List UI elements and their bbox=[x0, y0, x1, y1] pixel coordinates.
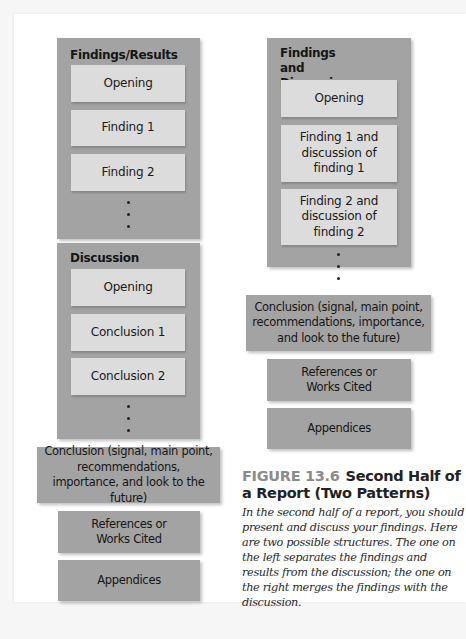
continuation-dots bbox=[337, 253, 341, 289]
finding-2-box: Finding 2 bbox=[71, 154, 185, 191]
right-appendices-box: Appendices bbox=[267, 408, 411, 449]
finding-1-discussion-box: Finding 1 and discussion of finding 1 bbox=[281, 125, 397, 182]
right-references-label: References or Works Cited bbox=[267, 365, 411, 396]
findings-results-title: Findings/Results bbox=[70, 48, 177, 63]
discussion-section: Discussion Opening Conclusion 1 Conclusi… bbox=[57, 243, 200, 439]
discussion-opening-label: Opening bbox=[103, 280, 152, 296]
figure-caption-body: In the second half of a report, you shou… bbox=[242, 505, 464, 610]
conclusion-2-box: Conclusion 2 bbox=[71, 358, 185, 395]
findings-opening-label: Opening bbox=[103, 76, 152, 92]
right-conclusion-label: Conclusion (signal, main point, recommen… bbox=[246, 300, 431, 347]
conclusion-1-box: Conclusion 1 bbox=[71, 314, 185, 351]
continuation-dots bbox=[127, 405, 131, 441]
left-references-box: References or Works Cited bbox=[58, 511, 200, 553]
right-conclusion-box: Conclusion (signal, main point, recommen… bbox=[246, 295, 431, 351]
continuation-dots bbox=[127, 201, 131, 237]
left-conclusion-box: Conclusion (signal, main point, recommen… bbox=[37, 447, 220, 503]
finding-2-discussion-label: Finding 2 and discussion of finding 2 bbox=[281, 194, 397, 241]
finding-2-discussion-box: Finding 2 and discussion of finding 2 bbox=[281, 189, 397, 245]
left-appendices-label: Appendices bbox=[97, 573, 161, 589]
conclusion-1-label: Conclusion 1 bbox=[91, 325, 165, 341]
findings-discussion-section: Findings and Discussion Opening Finding … bbox=[267, 38, 411, 267]
right-references-box: References or Works Cited bbox=[267, 359, 411, 401]
discussion-opening-box: Opening bbox=[71, 269, 185, 306]
findings-results-section: Findings/Results Opening Finding 1 Findi… bbox=[57, 38, 200, 239]
findings-opening-box: Opening bbox=[71, 65, 185, 102]
finding-2-label: Finding 2 bbox=[102, 165, 155, 181]
finding-1-box: Finding 1 bbox=[71, 110, 185, 146]
finding-1-label: Finding 1 bbox=[102, 120, 155, 136]
merged-opening-label: Opening bbox=[314, 91, 363, 107]
left-references-label: References or Works Cited bbox=[58, 517, 200, 548]
left-conclusion-label: Conclusion (signal, main point, recommen… bbox=[37, 444, 220, 506]
merged-opening-box: Opening bbox=[281, 80, 397, 117]
figure-label: FIGURE 13.6 bbox=[242, 468, 340, 484]
discussion-title: Discussion bbox=[70, 251, 139, 266]
finding-1-discussion-label: Finding 1 and discussion of finding 1 bbox=[281, 130, 397, 177]
figure-caption-title: FIGURE 13.6Second Half of a Report (Two … bbox=[242, 468, 462, 502]
left-appendices-box: Appendices bbox=[58, 560, 200, 601]
conclusion-2-label: Conclusion 2 bbox=[91, 369, 165, 385]
right-appendices-label: Appendices bbox=[307, 421, 371, 437]
